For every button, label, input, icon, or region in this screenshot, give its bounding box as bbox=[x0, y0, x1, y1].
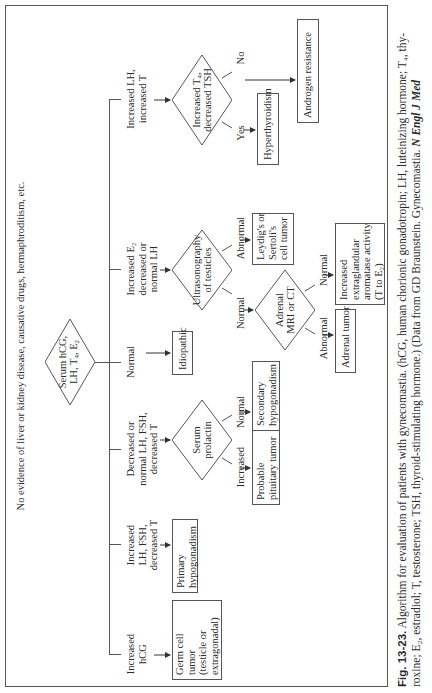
result-leydig-sertoli-tumor: Leydig's orSertoli'scell tumor bbox=[252, 213, 294, 265]
flowchart-stage: No evidence of liver or kidney disease, … bbox=[0, 0, 432, 693]
result-adrenal-tumor: Adrenal tumor bbox=[335, 309, 356, 373]
result-idiopathic: Idiopathic bbox=[172, 331, 193, 375]
result-secondary-hypogonadism: Secondaryhypogonadism bbox=[252, 361, 280, 431]
outcome-ultrasound-abnormal: Abnormal bbox=[235, 211, 247, 265]
decision-ultrasonography: Ultrasonographyof testicles bbox=[172, 230, 232, 310]
outcome-thyroid-yes: Yes bbox=[235, 113, 247, 153]
decision-thyroid: Increased T₄,decreased TSH bbox=[172, 55, 232, 145]
journal-name: N Engl J Med bbox=[410, 80, 422, 147]
result-primary-hypogonadism: Primaryhypogonadism bbox=[172, 519, 198, 593]
result-extraglandular-aromatase: Increasedextraglandulararomatase activit… bbox=[335, 223, 385, 305]
figure-caption: Fig. 13-23. Algorithm for evaluation of … bbox=[395, 5, 423, 687]
result-probable-pituitary-tumor: Probablepituitary tumor bbox=[252, 429, 280, 505]
result-androgen-resistance: Androgen resistance bbox=[297, 19, 319, 123]
outcome-ultrasound-normal: Normal bbox=[235, 288, 247, 338]
outcome-adrenal-normal: Normal bbox=[318, 245, 330, 295]
outcome-prolactin-increased: Increased bbox=[235, 437, 247, 497]
outcome-thyroid-no: No bbox=[235, 43, 247, 73]
outcome-adrenal-abnormal: Abnormal bbox=[318, 311, 330, 365]
figure-label: Fig. 13-23. bbox=[396, 631, 408, 687]
decision-serum-prolactin: Serumprolactin bbox=[172, 400, 232, 480]
result-germ-cell-tumor: Germ celltumor(testicle orextragonadal) bbox=[172, 600, 222, 680]
decision-adrenal-mri-ct: AdrenalMRI or CT bbox=[255, 270, 315, 350]
outcome-prolactin-normal: Normal bbox=[235, 387, 247, 437]
result-hyperthyroidism: Hyperthyroidism bbox=[257, 93, 279, 165]
